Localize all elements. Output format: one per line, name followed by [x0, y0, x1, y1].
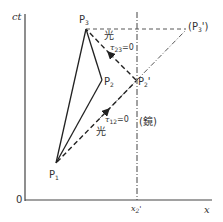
x2prime-tick-label: x2' — [131, 205, 142, 214]
tau23-label: τ23=0 — [110, 44, 134, 53]
spacetime-diagram: ct 0 x x2' P3 P2 P1 P2' (P3') 光 τ23=0 τ1… — [0, 0, 223, 222]
p2prime-to-p3prime-line — [137, 30, 186, 80]
p1-to-p3-line — [56, 29, 86, 163]
point-p1-label: P1 — [49, 170, 59, 181]
p3-to-p2-line — [86, 29, 102, 80]
ct-axis-label: ct — [12, 12, 22, 22]
light-ray-p2prime-p3 — [110, 54, 136, 80]
mirror-label: (鏡) — [139, 117, 157, 127]
tau12-label: τ12=0 — [105, 116, 129, 125]
point-p2prime-label: P2' — [138, 77, 151, 88]
point-p3-label: P3 — [79, 15, 89, 26]
p2-to-p1-line — [56, 80, 102, 163]
x-axis-label: x — [204, 205, 210, 215]
light-label-upper: 光 — [104, 31, 114, 41]
point-p2-label: P2 — [104, 77, 114, 88]
light-label-lower: 光 — [96, 127, 106, 137]
origin-label: 0 — [16, 195, 22, 205]
point-p3prime-label: (P3') — [188, 22, 208, 33]
